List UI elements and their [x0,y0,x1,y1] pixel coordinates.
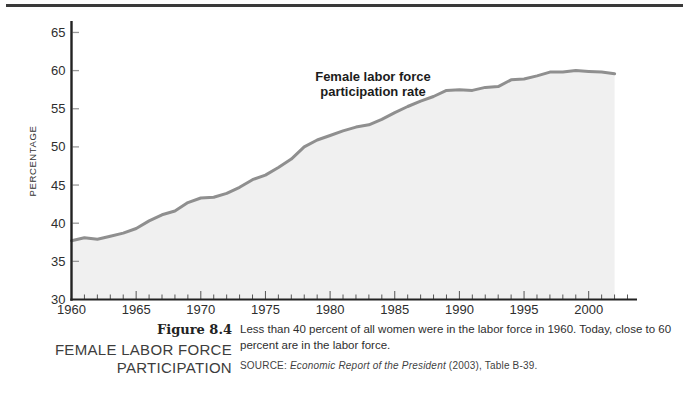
series-annotation: participation rate [320,84,425,99]
y-tick-label: 35 [51,254,65,269]
y-tick-label: 60 [51,63,65,78]
figure-source: SOURCE: Economic Report of the President… [240,360,688,371]
x-tick-label: 1990 [445,302,474,317]
figure-caption-right: Less than 40 percent of all women were i… [240,322,688,371]
x-tick-label: 1975 [251,302,280,317]
series-annotation: Female labor force [315,69,431,84]
x-tick-label: 1960 [57,302,86,317]
figure-title-line2: PARTICIPATION [117,359,232,376]
area-fill [72,71,615,300]
x-tick-label: 1995 [510,302,539,317]
x-tick-label: 1965 [122,302,151,317]
y-tick-label: 40 [51,216,65,231]
source-title: Economic Report of the President [290,360,446,371]
y-tick-label: 45 [51,178,65,193]
x-tick-label: 1980 [316,302,345,317]
figure-title: FEMALE LABOR FORCE PARTICIPATION [0,341,232,376]
y-tick-label: 55 [51,101,65,116]
y-tick-label: 50 [51,139,65,154]
figure-description: Less than 40 percent of all women were i… [240,322,672,353]
x-tick-label: 2000 [574,302,603,317]
chart: 3035404550556065196019651970197519801985… [0,0,688,320]
x-tick-label: 1970 [186,302,215,317]
figure-number: Figure 8.4 [0,322,232,337]
y-tick-label: 65 [51,25,65,40]
figure-caption-left: Figure 8.4 FEMALE LABOR FORCE PARTICIPAT… [0,322,232,376]
source-prefix: SOURCE: [240,360,290,371]
figure-title-line1: FEMALE LABOR FORCE [55,341,232,358]
source-suffix: (2003), Table B-39. [446,360,538,371]
x-tick-label: 1985 [380,302,409,317]
y-axis-title: PERCENTAGE [27,126,38,197]
